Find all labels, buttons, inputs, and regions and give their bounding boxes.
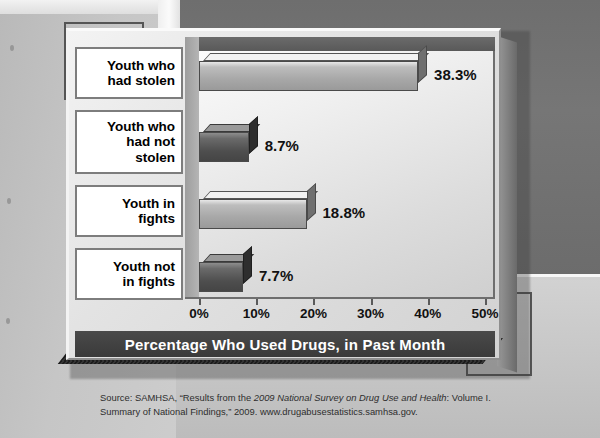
category-label-youth-in-fights: Youth in fights bbox=[75, 185, 183, 237]
label-line: had not bbox=[107, 134, 175, 149]
label-line: in fights bbox=[113, 274, 175, 289]
x-tick-label: 40% bbox=[414, 306, 441, 321]
label-line: fights bbox=[122, 211, 175, 226]
label-line: stolen bbox=[107, 150, 175, 165]
x-tick bbox=[485, 299, 487, 305]
x-axis: 0%10%20%30%40%50% bbox=[185, 299, 495, 329]
bar-front-face bbox=[199, 199, 307, 229]
bar-value-label: 18.8% bbox=[323, 204, 366, 221]
bar-top-face bbox=[203, 191, 318, 199]
label-line: had stolen bbox=[107, 73, 175, 88]
plot-left-wall bbox=[185, 37, 199, 299]
x-tick bbox=[199, 299, 201, 305]
page-speck bbox=[10, 45, 14, 51]
x-tick-label: 0% bbox=[189, 306, 209, 321]
page-speck bbox=[6, 318, 10, 324]
source-line-2: Summary of National Findings,” 2009. www… bbox=[100, 405, 520, 419]
bar-front-face bbox=[199, 262, 243, 292]
x-tick bbox=[371, 299, 373, 305]
source-text: Source: SAMHSA, “Results from the bbox=[100, 392, 254, 403]
label-line: Youth who bbox=[107, 58, 175, 73]
source-citation: Source: SAMHSA, “Results from the 2009 N… bbox=[100, 391, 520, 419]
x-tick-label: 30% bbox=[357, 306, 384, 321]
label-line: Youth who bbox=[107, 119, 175, 134]
bar-2: 8.7% bbox=[199, 132, 249, 162]
category-label-column: Youth who had stolen Youth who had not s… bbox=[75, 41, 185, 325]
background-page-top-edge bbox=[0, 0, 178, 14]
x-tick-label: 10% bbox=[243, 306, 270, 321]
category-label-youth-who-had-stolen: Youth who had stolen bbox=[75, 47, 183, 99]
source-text: : Volume I. bbox=[447, 392, 491, 403]
label-line: Youth not bbox=[113, 259, 175, 274]
bar-chart: Youth who had stolen Youth who had not s… bbox=[66, 28, 501, 360]
chart-inner-area: Youth who had stolen Youth who had not s… bbox=[75, 37, 495, 329]
chart-title: Percentage Who Used Drugs, in Past Month bbox=[125, 336, 446, 353]
source-title-italic: 2009 National Survey on Drug Use and Hea… bbox=[254, 392, 447, 403]
x-tick bbox=[256, 299, 258, 305]
category-label-youth-not-in-fights: Youth not in fights bbox=[75, 248, 183, 300]
x-tick bbox=[313, 299, 315, 305]
bar-3: 18.8% bbox=[199, 199, 307, 229]
bar-value-label: 8.7% bbox=[265, 137, 299, 154]
bar-front-face bbox=[199, 61, 418, 91]
source-line-1: Source: SAMHSA, “Results from the 2009 N… bbox=[100, 391, 520, 405]
chart-title-bar: Percentage Who Used Drugs, in Past Month bbox=[75, 331, 495, 357]
category-label-youth-who-had-not-stolen: Youth who had not stolen bbox=[75, 110, 183, 174]
page-speck bbox=[7, 198, 11, 204]
plot-top-band bbox=[185, 37, 495, 51]
bar-top-face bbox=[203, 53, 429, 61]
label-line: Youth in bbox=[122, 196, 175, 211]
bar-4: 7.7% bbox=[199, 262, 243, 292]
x-tick-label: 50% bbox=[471, 306, 498, 321]
x-tick-label: 20% bbox=[300, 306, 327, 321]
bar-front-face bbox=[199, 132, 249, 162]
bar-value-label: 38.3% bbox=[434, 66, 477, 83]
x-tick bbox=[428, 299, 430, 305]
bar-value-label: 7.7% bbox=[259, 267, 293, 284]
bar-1: 38.3% bbox=[199, 61, 418, 91]
